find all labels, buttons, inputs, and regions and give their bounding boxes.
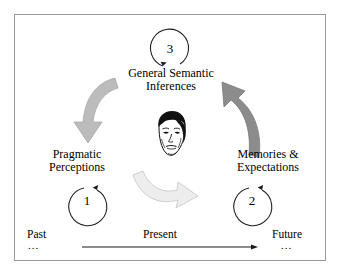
timeline-ellipsis-future: ... xyxy=(281,240,292,250)
node-label-memories-expectations: Memories & Expectations xyxy=(212,148,324,174)
timeline-label-present: Present xyxy=(143,228,177,240)
node-label-top-line2: Inferences xyxy=(100,80,242,93)
node-label-right-line2: Expectations xyxy=(212,161,324,174)
node-label-top-line1: General Semantic xyxy=(128,66,214,80)
node-label-left-line1: Pragmatic xyxy=(53,147,102,161)
flow-arrow-right-to-top-icon xyxy=(222,82,260,157)
cycle-marker-label-1: 1 xyxy=(67,194,107,208)
node-label-left-line2: Perceptions xyxy=(24,161,130,174)
cycle-marker-label-2: 2 xyxy=(232,194,272,208)
node-label-pragmatic-perceptions: Pragmatic Perceptions xyxy=(24,148,130,174)
cycle-marker-label-3: 3 xyxy=(150,42,190,56)
child-face-illustration xyxy=(152,109,192,159)
node-label-right-line1: Memories & xyxy=(238,147,299,161)
timeline-ellipsis-past: ... xyxy=(28,240,39,250)
timeline-axis-icon xyxy=(82,244,258,249)
flow-arrow-left-to-right-icon xyxy=(133,171,198,208)
node-label-general-semantic-inferences: General Semantic Inferences xyxy=(100,67,242,93)
diagram-page: General Semantic Inferences Pragmatic Pe… xyxy=(0,0,341,277)
